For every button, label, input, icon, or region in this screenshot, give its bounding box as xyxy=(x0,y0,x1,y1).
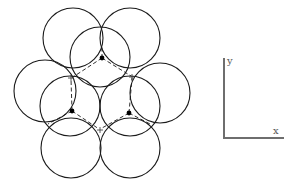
plus-markers xyxy=(68,74,135,133)
back-circle-top-left xyxy=(43,8,103,68)
bond-right-downleft xyxy=(102,113,129,128)
front-circle-left xyxy=(40,76,100,136)
back-circle-mid-right xyxy=(130,63,190,123)
atom-dot-left xyxy=(70,109,75,114)
bond-right-downright xyxy=(129,113,152,125)
bond-left-downright xyxy=(72,111,99,129)
x-axis-label: x xyxy=(273,126,279,136)
plus-marker-bottom xyxy=(97,127,103,133)
back-circle-mid-left xyxy=(14,60,76,122)
bond-left-downleft xyxy=(48,111,72,124)
sphere-packing-diagram xyxy=(0,0,288,188)
atom-dot-top xyxy=(100,56,105,61)
y-axis-label: y xyxy=(227,56,233,66)
back-layer xyxy=(14,8,190,178)
atom-dot-right xyxy=(127,111,132,116)
bond-top-right xyxy=(102,58,131,76)
